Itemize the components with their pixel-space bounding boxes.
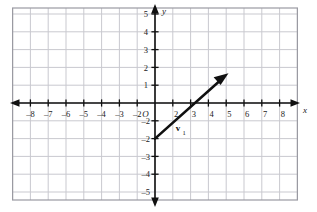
x-tick-label: 6 (245, 109, 249, 119)
vector-v1-label: v 1 (176, 123, 186, 136)
x-tick-label: –7 (43, 109, 53, 119)
graph-canvas: –8 –7 –6 –5 –4 –3 –2 2 3 4 5 6 7 8 5 4 3… (0, 0, 317, 212)
x-tick-label: 8 (281, 109, 285, 119)
x-tick-label: –2 (132, 109, 142, 119)
y-tick-label: 1 (144, 80, 148, 90)
y-tick-label: 2 (144, 63, 148, 73)
x-tick-label: –6 (61, 109, 71, 119)
coordinate-plane-figure: –8 –7 –6 –5 –4 –3 –2 2 3 4 5 6 7 8 5 4 3… (0, 0, 317, 212)
x-tick-label: –4 (96, 109, 106, 119)
vector-label-letter: v (176, 123, 181, 133)
y-tick-label: –4 (141, 169, 151, 179)
x-tick-label: –8 (25, 109, 35, 119)
y-tick-label: –3 (141, 152, 151, 162)
x-tick-label: –3 (114, 109, 124, 119)
x-tick-label: 7 (263, 109, 267, 119)
x-tick-label: –5 (79, 109, 89, 119)
y-axis (151, 4, 159, 207)
y-tick-label: 5 (144, 9, 148, 19)
x-tick-label: 3 (192, 109, 196, 119)
origin-label: O (142, 109, 149, 119)
vector-label-subscript: 1 (182, 129, 185, 136)
y-tick-label: 3 (144, 45, 148, 55)
x-tick-label: 4 (209, 109, 214, 119)
x-tick-label: 5 (227, 109, 231, 119)
x-axis-label: x (302, 105, 307, 115)
y-tick-label: –2 (141, 134, 151, 144)
vector-v1 (155, 73, 229, 138)
y-axis-label: y (161, 6, 166, 16)
y-tick-label: –5 (141, 187, 151, 197)
